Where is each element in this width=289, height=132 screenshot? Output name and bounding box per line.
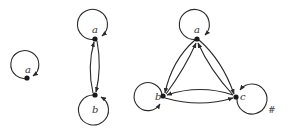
edge-c-to-b [167, 90, 233, 96]
graph-2: a b [77, 9, 108, 125]
vertex-label-b: b [92, 104, 98, 115]
vertex-label-b: b [155, 91, 161, 102]
edge-b-to-c [165, 98, 233, 103]
edge-a-to-b [165, 40, 195, 93]
vertex-label-a: a [25, 64, 31, 75]
digraph-figure: a a b a b c # [0, 0, 289, 132]
vertex-b [92, 92, 97, 97]
vertex-c [233, 94, 238, 99]
vertex-label-c: c [240, 91, 246, 102]
vertex-label-a: a [92, 24, 98, 35]
edge-b-to-a [166, 43, 196, 94]
edge-c-to-a [198, 43, 233, 95]
edge-b-to-a [90, 42, 94, 93]
vertex-a [92, 36, 97, 41]
vertex-a [194, 36, 199, 41]
end-of-proof-mark: # [268, 105, 276, 115]
graph-3: a b c [134, 9, 267, 114]
edge-a-to-b [96, 41, 99, 92]
vertex-label-a: a [194, 24, 200, 35]
vertex-a [24, 75, 29, 80]
graph-1: a [11, 51, 39, 81]
edge-a-to-c [199, 40, 234, 94]
